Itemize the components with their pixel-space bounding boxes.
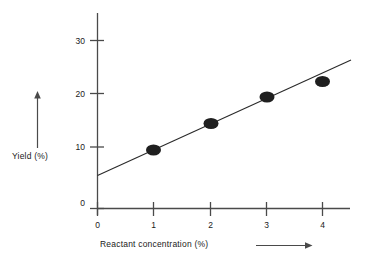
data-points [146, 76, 330, 156]
x-axis-direction-arrow-icon [256, 242, 313, 249]
trend-line [98, 60, 352, 176]
y-tick-label-10: 10 [76, 143, 85, 152]
x-tick-label-1: 1 [151, 221, 156, 230]
x-axis-title: Reactant concentration (%) [100, 240, 208, 249]
data-point [146, 144, 161, 155]
y-tick-label-0: 0 [80, 199, 85, 208]
x-tick-label-3: 3 [264, 221, 269, 230]
data-point [204, 118, 219, 129]
data-point [315, 76, 330, 87]
plot-area [0, 0, 365, 264]
x-tick-label-2: 2 [208, 221, 213, 230]
y-tick-label-20: 20 [76, 89, 85, 98]
y-axis-title: Yield (%) [12, 152, 48, 161]
y-tick-label-30: 30 [76, 36, 85, 45]
data-point [260, 91, 275, 102]
x-tick-label-4: 4 [320, 221, 325, 230]
x-tick-label-0: 0 [95, 221, 100, 230]
chart-figure: 30 20 10 0 0 1 2 3 4 Yield (%) Reactant … [0, 0, 365, 264]
y-axis-direction-arrow-icon [34, 91, 41, 148]
